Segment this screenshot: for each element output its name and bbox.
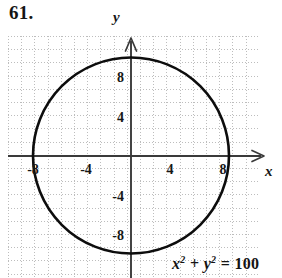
equation-rhs: 100: [234, 255, 259, 272]
y-tick-label-pos4: 4: [102, 111, 124, 125]
x-tick-label-pos4: 4: [167, 163, 174, 177]
plot-svg: [0, 0, 282, 278]
x-tick-label-neg4: -4: [80, 163, 92, 177]
x-tick-label-neg8: -8: [27, 163, 39, 177]
y-tick-label-neg8: -8: [98, 229, 124, 243]
y-tick-label-neg4: -4: [98, 190, 124, 204]
equation-label: x2 + y2 = 100: [172, 254, 259, 274]
y-axis-label: y: [113, 10, 120, 25]
coordinate-graph: -8 -4 4 8 8 4 -4 -8 y x: [0, 0, 282, 278]
equation-equals: =: [216, 255, 234, 272]
x-axis-label: x: [265, 164, 273, 179]
x-tick-label-pos8: 8: [220, 163, 227, 177]
figure-container: 61. -8 -4 4 8 8 4 -4 -8 y x: [0, 0, 282, 278]
equation-y: y: [204, 255, 211, 272]
equation-plus: +: [186, 255, 204, 272]
y-tick-label-pos8: 8: [102, 71, 124, 85]
